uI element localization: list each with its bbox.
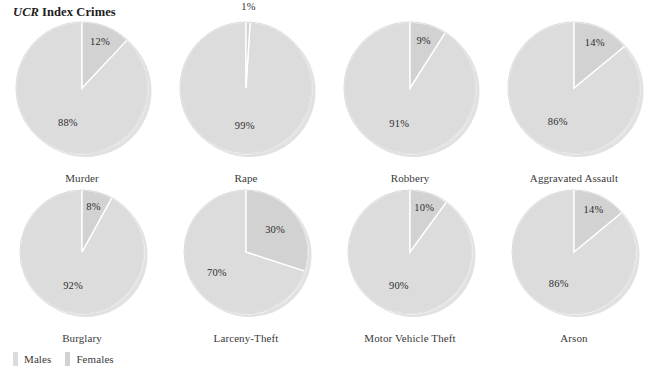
slice-label-males: 90% [389,280,409,291]
slice-label-males: 92% [63,280,83,291]
slice-label-females: 1% [241,1,255,12]
pie-chart-burglary: 92%8%Burglary [0,174,164,330]
pie-svg: 86%14% [492,6,656,170]
slice-label-males: 86% [549,278,569,289]
pie-caption: Motor Vehicle Theft [328,332,492,344]
legend-item-females: Females [65,352,113,366]
pie-chart-arson: 86%14%Arson [492,174,656,330]
slice-label-females: 30% [265,224,285,235]
slice-label-females: 12% [90,36,110,47]
slice-label-males: 91% [389,118,409,129]
legend: MalesFemales [13,352,114,366]
pie-svg: 90%10% [328,174,492,330]
pie-chart-aggravated-assault: 86%14%Aggravated Assault [492,6,656,170]
pie-chart-rape: 99%1%Rape [164,6,328,170]
legend-swatch-males [13,352,18,366]
pie-chart-robbery: 91%9%Robbery [328,6,492,170]
legend-label: Males [24,353,51,365]
pie-caption: Larceny-Theft [164,332,328,344]
pie-svg: 86%14% [492,174,656,330]
legend-swatch-females [65,352,70,366]
pie-chart-motor-vehicle-theft: 90%10%Motor Vehicle Theft [328,174,492,330]
slice-label-females: 9% [416,35,430,46]
legend-label: Females [76,353,113,365]
pie-svg: 70%30% [164,174,328,330]
ucr-index-crimes-figure: UCRIndex Crimes 88%12%Murder99%1%Rape91%… [0,0,657,378]
pie-svg: 88%12% [0,6,164,170]
pie-svg: 91%9% [328,6,492,170]
pie-caption: Arson [492,332,656,344]
pie-svg: 92%8% [0,174,164,330]
slice-label-females: 8% [86,201,100,212]
legend-item-males: Males [13,352,51,366]
slice-label-females: 10% [414,202,434,213]
slice-label-males: 99% [235,120,255,131]
slice-label-males: 88% [58,117,78,128]
slice-label-females: 14% [584,204,604,215]
pie-caption: Burglary [0,332,164,344]
slice-label-males: 70% [207,267,227,278]
slice-label-males: 86% [548,116,568,127]
pie-chart-larceny-theft: 70%30%Larceny-Theft [164,174,328,330]
slice-label-females: 14% [585,37,605,48]
pie-svg: 99%1% [164,6,328,170]
pie-chart-murder: 88%12%Murder [0,6,164,170]
